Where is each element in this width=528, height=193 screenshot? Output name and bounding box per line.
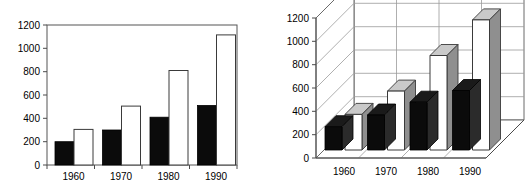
bar-dark-1970 <box>103 130 122 165</box>
bar-light-1990 <box>217 35 236 165</box>
x-tick-label: 1980 <box>417 166 440 177</box>
y-tick-label: 600 <box>292 83 309 94</box>
flat-bar-chart-svg: 0 200 400 600 800 1000 1200 <box>0 0 264 193</box>
chart-pair-figure: 0 200 400 600 800 1000 1200 <box>0 0 528 193</box>
x-tick-label: 1970 <box>110 171 133 182</box>
y-tick-label: 200 <box>23 136 40 147</box>
y-tick-label: 1200 <box>18 20 41 31</box>
y-axis-ticks <box>43 25 47 165</box>
y-tick-label: 1000 <box>287 36 310 47</box>
y-tick-label: 600 <box>23 90 40 101</box>
y-tick-label: 200 <box>292 129 309 140</box>
x-tick-label: 1990 <box>205 171 228 182</box>
three-d-bar-chart-panel: 0 200 400 600 800 1000 1200 <box>264 0 528 193</box>
category-separators <box>47 165 237 169</box>
y-tick-label: 800 <box>23 66 40 77</box>
bar-dark-1960 <box>55 142 74 165</box>
y-tick-label: 400 <box>23 113 40 124</box>
x-tick-label: 1980 <box>157 171 180 182</box>
three-d-bar-chart-svg: 0 200 400 600 800 1000 1200 <box>264 0 528 193</box>
y-tick-label: 800 <box>292 59 309 70</box>
bar-dark-1980 <box>150 117 169 165</box>
x-tick-label: 1960 <box>333 166 356 177</box>
y-tick-label: 0 <box>303 153 309 164</box>
bar-dark-1990 <box>198 106 217 166</box>
y-tick-label: 1000 <box>18 43 41 54</box>
y-axis-ticks <box>312 18 316 158</box>
bar-light-1960 <box>74 129 93 165</box>
x-tick-label: 1960 <box>62 171 85 182</box>
bar-light-1970 <box>122 106 141 165</box>
y-tick-label: 1200 <box>287 13 310 24</box>
y-tick-label: 400 <box>292 106 309 117</box>
flat-bar-chart-panel: 0 200 400 600 800 1000 1200 <box>0 0 264 193</box>
x-tick-label: 1970 <box>375 166 398 177</box>
bar-light-1980 <box>169 71 188 166</box>
y-tick-label: 0 <box>34 160 40 171</box>
x-tick-label: 1990 <box>459 166 482 177</box>
